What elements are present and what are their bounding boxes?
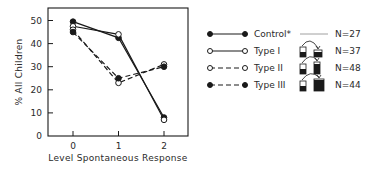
legend-item: Type IN=37 (208, 41, 361, 57)
chart: 01020304050012Level Spontaneous Response… (0, 0, 373, 174)
open-circle-marker-icon (208, 49, 213, 54)
filled-circle-marker-icon (116, 75, 122, 81)
x-tick-label: 0 (70, 141, 76, 151)
beaker-transfer-icon (300, 74, 324, 91)
legend-label: Type III (253, 80, 286, 90)
y-tick-label: 30 (31, 62, 43, 72)
filled-circle-marker-icon (208, 32, 213, 37)
y-tick-label: 10 (31, 108, 43, 118)
legend-item: Type IIIN=44 (208, 74, 361, 91)
beaker-transfer-icon (300, 41, 322, 57)
legend-n-count: N=48 (335, 63, 361, 73)
x-tick-label: 2 (161, 141, 167, 151)
legend-item: Control*N=27 (208, 29, 361, 39)
y-axis-title: % All Children (14, 38, 24, 105)
y-tick-label: 50 (31, 16, 43, 26)
open-circle-marker-icon (208, 66, 213, 71)
x-axis-title: Level Spontaneous Response (48, 153, 187, 163)
y-tick-label: 0 (36, 131, 42, 141)
open-circle-marker-icon (116, 32, 122, 38)
legend-label: Type I (253, 46, 280, 56)
legend-item: Type IIN=48 (208, 57, 361, 74)
open-circle-marker-icon (243, 49, 248, 54)
filled-circle-marker-icon (70, 29, 76, 35)
legend-n-count: N=27 (335, 29, 361, 39)
legend: Control*N=27Type IN=37Type IIN=48Type II… (208, 29, 361, 91)
legend-n-count: N=44 (335, 80, 361, 90)
open-circle-marker-icon (243, 66, 248, 71)
plot-series (70, 19, 167, 123)
beaker-transfer-icon (300, 57, 320, 74)
filled-circle-marker-icon (243, 32, 248, 37)
legend-n-count: N=37 (335, 46, 361, 56)
legend-label: Control* (254, 29, 292, 39)
filled-circle-marker-icon (243, 83, 248, 88)
y-tick-label: 20 (31, 85, 43, 95)
open-circle-marker-icon (161, 117, 167, 123)
x-tick-label: 1 (116, 141, 122, 151)
legend-label: Type II (253, 63, 283, 73)
filled-circle-marker-icon (208, 83, 213, 88)
filled-circle-marker-icon (161, 64, 167, 70)
y-tick-label: 40 (31, 39, 43, 49)
